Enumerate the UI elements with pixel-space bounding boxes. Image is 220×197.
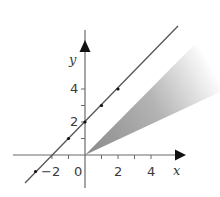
point	[34, 170, 37, 173]
x-tick-label-neg2: −2	[41, 164, 60, 179]
point	[116, 87, 119, 90]
coordinate-plane: −2 0 2 4 x 2 4 y	[0, 0, 220, 197]
point	[100, 104, 103, 107]
x-axis	[13, 150, 186, 161]
y-axis-label: y	[68, 52, 77, 67]
y-axis-arrow-icon	[80, 40, 91, 52]
y-tick-label-4: 4	[70, 81, 78, 96]
origin-label: 0	[74, 164, 82, 179]
point	[83, 120, 86, 123]
x-tick-label-2: 2	[114, 164, 122, 179]
x-axis-label: x	[173, 163, 181, 178]
y-tick-label-2: 2	[70, 114, 78, 129]
x-tick-label-4: 4	[147, 164, 155, 179]
x-axis-arrow-icon	[175, 150, 186, 161]
point	[67, 137, 70, 140]
